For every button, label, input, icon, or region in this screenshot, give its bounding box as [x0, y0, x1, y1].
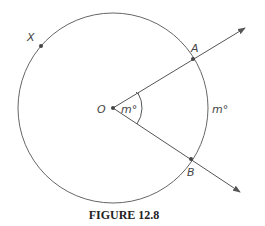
figure-caption: FIGURE 12.8	[89, 208, 160, 222]
ray-ob	[113, 108, 240, 192]
point-o	[111, 106, 115, 110]
point-x	[39, 44, 43, 48]
label-x: X	[26, 31, 35, 44]
angle-arc	[137, 93, 142, 124]
figure-diagram: O A B X m° m° FIGURE 12.8	[0, 0, 265, 226]
label-o: O	[97, 103, 106, 116]
point-b	[189, 157, 193, 161]
central-angle-label: m°	[121, 103, 137, 116]
label-b: B	[187, 166, 195, 179]
arc-label: m°	[212, 103, 228, 116]
label-a: A	[190, 42, 199, 55]
point-a	[191, 57, 195, 61]
